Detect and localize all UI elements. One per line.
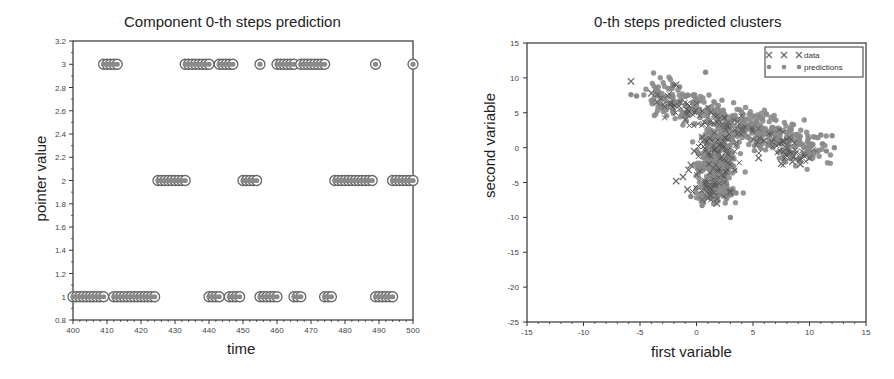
left-chart-plot: 0.811.21.41.61.822.22.42.62.833.24004104… [0,0,447,379]
y-tick-label: 1.2 [55,270,67,279]
x-tick-label: 410 [100,326,114,335]
left-markers [68,59,418,302]
y-tick-label: 5 [515,109,520,118]
y-tick-label: 2.8 [55,84,67,93]
y-tick-label: 2.2 [55,153,67,162]
y-tick-label: 1.4 [55,246,67,255]
right-plot-frame [527,43,866,322]
y-tick-label: 15 [510,39,519,48]
y-tick-label: 1.8 [55,200,67,209]
y-tick-label: 2 [62,177,67,186]
x-tick-label: 10 [805,328,814,337]
y-tick-label: -20 [507,283,519,292]
x-tick-label: 5 [751,328,756,337]
x-tick-label: 450 [236,326,250,335]
x-tick-label: 490 [372,326,386,335]
y-tick-label: 3.2 [55,37,67,46]
y-tick-label: 0 [515,144,520,153]
x-tick-label: -15 [521,328,533,337]
x-tick-label: 440 [202,326,216,335]
y-tick-label: -15 [507,248,519,257]
right-chart-panel: 0-th steps predicted clusters -25-20-15-… [447,0,894,379]
y-tick-label: 2.6 [55,107,67,116]
y-tick-label: 2.4 [55,130,67,139]
x-tick-label: 500 [406,326,420,335]
right-chart-plot: -25-20-15-10-5051015-15-10-5051015datapr… [447,0,894,379]
left-chart-xlabel: time [227,340,255,357]
x-tick-label: 480 [338,326,352,335]
x-tick-label: 470 [304,326,318,335]
right-chart-ylabel: second variable [481,86,498,206]
x-tick-label: 15 [862,328,871,337]
x-tick-label: 420 [134,326,148,335]
legend: datapredictions [765,47,863,77]
y-tick-label: 1.6 [55,223,67,232]
legend-label-data: data [804,51,820,60]
x-tick-label: 430 [168,326,182,335]
y-tick-label: -25 [507,318,519,327]
x-tick-label: 400 [66,326,80,335]
y-tick-label: 1 [62,293,67,302]
y-tick-label: 0.8 [55,316,67,325]
legend-label-predictions: predictions [804,63,843,72]
y-tick-label: 3 [62,60,67,69]
x-tick-label: 0 [694,328,699,337]
x-tick-label: -10 [578,328,590,337]
left-chart-ylabel: pointer value [32,129,49,229]
left-chart-panel: Component 0-th steps prediction 0.811.21… [0,0,447,379]
y-tick-label: 10 [510,74,519,83]
x-tick-label: -5 [636,328,644,337]
x-tick-label: 460 [270,326,284,335]
y-tick-label: -10 [507,213,519,222]
y-tick-label: -5 [512,179,520,188]
right-chart-xlabel: first variable [651,343,732,360]
